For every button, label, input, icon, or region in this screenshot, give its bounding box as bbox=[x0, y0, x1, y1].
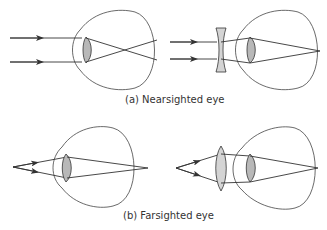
eye-lens bbox=[247, 37, 255, 63]
concave-corrective-lens bbox=[216, 28, 226, 72]
farsighted-corrected bbox=[176, 127, 318, 209]
eye-optics-diagram bbox=[0, 0, 327, 230]
caption-farsighted: (b) Farsighted eye bbox=[123, 210, 214, 221]
nearsighted-uncorrected bbox=[10, 10, 157, 89]
eye-lens bbox=[83, 37, 91, 63]
convex-corrective-lens bbox=[216, 146, 227, 191]
caption-nearsighted: (a) Nearsighted eye bbox=[125, 94, 224, 105]
nearsighted-corrected bbox=[170, 10, 320, 89]
eyeball-outline bbox=[233, 127, 315, 209]
eye-lens bbox=[246, 154, 255, 182]
farsighted-uncorrected bbox=[13, 127, 148, 208]
